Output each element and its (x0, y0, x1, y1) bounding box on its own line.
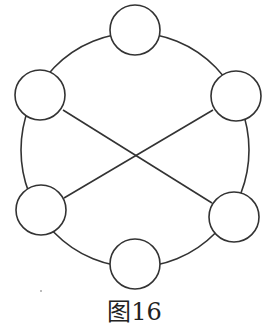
node-bottom (110, 239, 160, 289)
node-upper-left (15, 70, 65, 120)
node-lower-left (16, 185, 66, 235)
node-upper-right (211, 71, 261, 121)
node-lower-right (209, 192, 259, 242)
node-top (110, 5, 160, 55)
cross-line-ur-ll (64, 110, 213, 198)
circle-diagram (0, 0, 269, 330)
figure-caption: 图16 (0, 292, 269, 327)
